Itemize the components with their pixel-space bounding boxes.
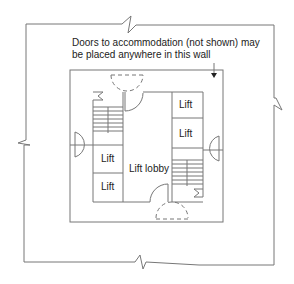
lift-label: Lift [179,128,192,139]
annotation-line-1: Doors to accommodation (not shown) may [72,37,272,49]
core-plan [70,75,223,219]
lift-label: Lift [179,99,192,110]
wall-annotation: Doors to accommodation (not shown) may b… [72,37,272,61]
lift-label: Lift [101,181,114,192]
annotation-line-2: be placed anywhere in this wall [72,49,272,61]
lobby-label: Lift lobby [129,163,169,174]
lift-label: Lift [101,153,114,164]
